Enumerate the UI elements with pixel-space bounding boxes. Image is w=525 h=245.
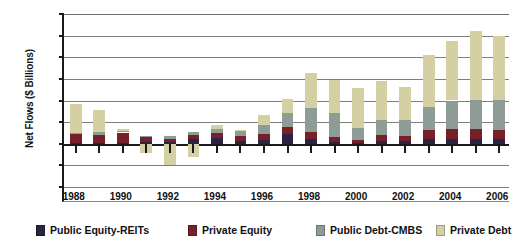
x-tick-2005 bbox=[475, 144, 477, 153]
bar-segment-2004-2 bbox=[446, 101, 458, 130]
x-tick-2004 bbox=[451, 144, 453, 153]
x-tick-label-2002: 2002 bbox=[378, 191, 428, 202]
x-tick-1988 bbox=[75, 144, 77, 153]
x-tick-label-2004: 2004 bbox=[425, 191, 475, 202]
bar-2000 bbox=[352, 14, 364, 187]
x-tick-1990 bbox=[122, 144, 124, 153]
legend-item-1: Private Equity bbox=[188, 224, 272, 236]
bar-1994 bbox=[211, 14, 223, 187]
bar-segment-1996-3 bbox=[258, 115, 270, 125]
bar-2006 bbox=[493, 14, 505, 187]
bar-1988 bbox=[70, 14, 82, 187]
bar-segment-1993-2 bbox=[188, 132, 200, 135]
bar-1993 bbox=[188, 14, 200, 187]
bar-segment-1992-1 bbox=[164, 139, 176, 142]
bar-segment-2001-1 bbox=[376, 135, 388, 141]
bar-segment-1993-1 bbox=[188, 135, 200, 138]
bar-segment-2006-3 bbox=[493, 36, 505, 99]
bar-1996 bbox=[258, 14, 270, 187]
bar-segment-2005-2 bbox=[470, 100, 482, 129]
bar-segment-1995-1 bbox=[235, 136, 247, 141]
bar-segment-2001-2 bbox=[376, 120, 388, 136]
bar-segment-2005-1 bbox=[470, 129, 482, 139]
bar-segment-1988-1 bbox=[70, 134, 82, 143]
bar-segment-1998-2 bbox=[305, 108, 317, 131]
plot-area bbox=[62, 14, 509, 187]
x-tick-1996 bbox=[263, 144, 265, 153]
x-tick-2001 bbox=[381, 144, 383, 153]
bar-1991 bbox=[140, 14, 152, 187]
y-axis-title: Net Flows ($ Billions) bbox=[24, 24, 35, 174]
bar-segment-1994-2 bbox=[211, 129, 223, 133]
x-tick-1998 bbox=[310, 144, 312, 153]
x-tick-1995 bbox=[239, 144, 241, 153]
legend-item-3: Private Debt bbox=[436, 224, 511, 236]
bar-series-container bbox=[64, 14, 509, 187]
bar-segment-2002-2 bbox=[399, 120, 411, 136]
bar-segment-2003-1 bbox=[423, 130, 435, 140]
bar-segment-1999-3 bbox=[329, 80, 341, 113]
x-tick-1999 bbox=[334, 144, 336, 153]
x-tick-2003 bbox=[428, 144, 430, 153]
bar-2002 bbox=[399, 14, 411, 187]
bar-segment-1995-2 bbox=[235, 131, 247, 136]
bar-segment-1990-1 bbox=[117, 133, 129, 143]
chart-legend: Public Equity-REITsPrivate EquityPublic … bbox=[36, 222, 516, 238]
bar-segment-1999-2 bbox=[329, 113, 341, 137]
bar-segment-1994-3 bbox=[211, 125, 223, 129]
x-tick-label-1994: 1994 bbox=[190, 191, 240, 202]
bar-segment-2000-3 bbox=[352, 88, 364, 128]
bar-1992 bbox=[164, 14, 176, 187]
x-tick-1993 bbox=[192, 144, 194, 153]
bar-segment-1997-2 bbox=[282, 113, 294, 128]
bar-segment-1990-2 bbox=[117, 131, 129, 133]
bar-1989 bbox=[93, 14, 105, 187]
bar-segment-1995-3 bbox=[235, 130, 247, 131]
x-tick-label-2006: 2006 bbox=[472, 191, 522, 202]
bar-2005 bbox=[470, 14, 482, 187]
x-tick-1991 bbox=[145, 144, 147, 153]
bar-segment-1991-1 bbox=[140, 137, 152, 142]
bar-segment-1996-1 bbox=[258, 134, 270, 140]
bar-segment-2000-2 bbox=[352, 128, 364, 140]
bar-segment-1997-3 bbox=[282, 99, 294, 113]
bar-segment-1997-0 bbox=[282, 134, 294, 144]
bar-segment-1988-3 bbox=[70, 104, 82, 133]
bar-segment-2001-3 bbox=[376, 81, 388, 119]
bar-1998 bbox=[305, 14, 317, 187]
x-tick-1989 bbox=[98, 144, 100, 153]
legend-swatch-icon-3 bbox=[436, 225, 445, 236]
bar-segment-1997-1 bbox=[282, 127, 294, 134]
bar-segment-2003-3 bbox=[423, 55, 435, 107]
bar-2001 bbox=[376, 14, 388, 187]
bar-segment-1990-3 bbox=[117, 129, 129, 131]
x-tick-2000 bbox=[357, 144, 359, 153]
bar-segment-2002-3 bbox=[399, 87, 411, 121]
bar-segment-1991-2 bbox=[140, 136, 152, 137]
legend-swatch-icon-0 bbox=[36, 225, 45, 236]
x-tick-2006 bbox=[498, 144, 500, 153]
x-tick-label-1998: 1998 bbox=[284, 191, 334, 202]
bar-segment-1998-3 bbox=[305, 73, 317, 108]
x-tick-1997 bbox=[287, 144, 289, 153]
bar-segment-1992-2 bbox=[164, 136, 176, 139]
x-tick-label-1988: 1988 bbox=[49, 191, 99, 202]
legend-label-3: Private Debt bbox=[450, 224, 511, 236]
legend-label-2: Public Debt-CMBS bbox=[330, 224, 422, 236]
bar-segment-2004-3 bbox=[446, 41, 458, 101]
x-tick-1992 bbox=[169, 144, 171, 153]
bar-segment-1998-1 bbox=[305, 132, 317, 139]
bar-segment-2006-1 bbox=[493, 130, 505, 140]
legend-swatch-icon-2 bbox=[316, 225, 325, 236]
bar-segment-1988-2 bbox=[70, 133, 82, 134]
bar-segment-1989-3 bbox=[93, 110, 105, 132]
bar-segment-1994-1 bbox=[211, 133, 223, 137]
x-tick-1994 bbox=[216, 144, 218, 153]
bar-segment-2003-2 bbox=[423, 107, 435, 130]
bar-1990 bbox=[117, 14, 129, 187]
bar-segment-2000-1 bbox=[352, 140, 364, 143]
bar-2003 bbox=[423, 14, 435, 187]
bar-segment-2005-3 bbox=[470, 31, 482, 99]
legend-item-0: Public Equity-REITs bbox=[36, 224, 149, 236]
legend-label-1: Private Equity bbox=[202, 224, 272, 236]
